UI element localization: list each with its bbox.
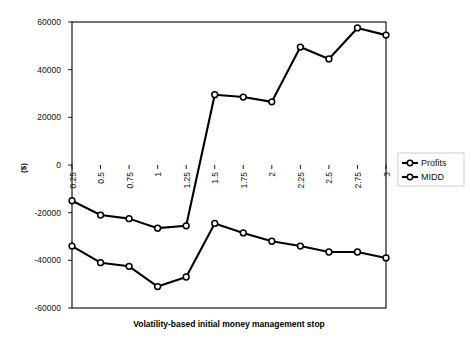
data-point <box>383 255 389 261</box>
data-point <box>155 284 161 290</box>
legend-swatch-marker-midd <box>407 174 412 179</box>
data-point <box>69 243 75 249</box>
line-chart: 6000040000200000-20000-40000-60000 0.250… <box>0 0 471 349</box>
data-point <box>240 94 246 100</box>
x-axis-tick-label: 2.25 <box>296 172 306 189</box>
y-axis-tick-label: 20000 <box>37 112 61 122</box>
data-point <box>212 92 218 98</box>
chart-legend: ProfitsMIDD <box>398 153 464 186</box>
y-axis-tick-label: -20000 <box>35 208 62 218</box>
x-axis-tick-label: 0.25 <box>68 172 78 189</box>
data-point <box>269 99 275 105</box>
x-axis-tick-label: 3 <box>382 172 392 177</box>
data-point <box>183 223 189 229</box>
y-axis-tick-label: 40000 <box>37 65 61 75</box>
y-axis-tick-label: 60000 <box>37 17 61 27</box>
data-point <box>326 249 332 255</box>
data-point <box>269 238 275 244</box>
data-point <box>297 243 303 249</box>
x-axis-tick-label: 0.75 <box>125 172 135 189</box>
x-axis-tick-label: 1 <box>153 172 163 177</box>
data-point <box>155 225 161 231</box>
data-point <box>98 260 104 266</box>
legend-label-profits: Profits <box>421 158 447 168</box>
y-axis-title: ($) <box>19 163 28 173</box>
data-point <box>355 249 361 255</box>
y-axis-tick-label: -60000 <box>35 303 62 313</box>
data-point <box>98 212 104 218</box>
data-point <box>212 220 218 226</box>
data-point <box>69 198 75 204</box>
x-axis-tick-label: 1.75 <box>239 172 249 189</box>
x-axis-title: Volatility-based initial money managemen… <box>133 319 325 329</box>
x-axis-tick-label: 2.75 <box>353 172 363 189</box>
data-point <box>355 25 361 31</box>
chart-container: 6000040000200000-20000-40000-60000 0.250… <box>0 0 471 349</box>
data-point <box>126 216 132 222</box>
x-axis-tick-label: 2.5 <box>324 172 334 184</box>
data-point <box>326 56 332 62</box>
y-axis-tick-label: 0 <box>56 160 61 170</box>
data-point <box>297 44 303 50</box>
legend-swatch-marker-profits <box>407 160 412 165</box>
legend-label-midd: MIDD <box>421 172 444 182</box>
data-point <box>183 274 189 280</box>
data-point <box>240 230 246 236</box>
x-axis-tick-label: 0.5 <box>96 172 106 184</box>
data-point <box>126 263 132 269</box>
data-point <box>383 32 389 38</box>
y-axis-tick-label: -40000 <box>35 255 62 265</box>
x-axis-tick-label: 1.5 <box>210 172 220 184</box>
x-axis-tick-label: 1.25 <box>182 172 192 189</box>
x-axis-tick-label: 2 <box>267 172 277 177</box>
